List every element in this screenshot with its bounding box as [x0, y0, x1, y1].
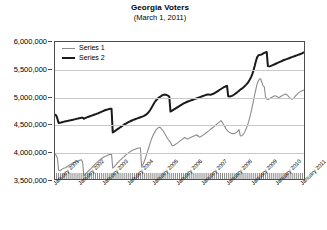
series-line-2: [55, 52, 304, 132]
x-axis-labels: January 2001January 2002January 2003Janu…: [0, 182, 320, 230]
y-axis-tick-label: 6,000,000: [14, 37, 47, 46]
y-axis-tick-mark: [48, 41, 52, 42]
y-axis-tick-label: 4,000,000: [14, 148, 47, 157]
y-axis-tick-label: 5,500,000: [14, 64, 47, 73]
y-axis-tick-mark: [48, 69, 52, 70]
chart-legend: Series 1 Series 2: [62, 44, 105, 62]
gridline: [55, 70, 304, 71]
legend-item-series-2: Series 2: [62, 54, 105, 62]
gridline: [55, 153, 304, 154]
legend-item-series-1: Series 1: [62, 44, 105, 52]
gridline: [55, 125, 304, 126]
legend-label-series-1: Series 1: [79, 44, 105, 52]
legend-swatch-series-1-icon: [62, 48, 75, 49]
y-axis-tick-mark: [48, 152, 52, 153]
y-axis-tick-mark: [48, 124, 52, 125]
series-line-1: [55, 79, 304, 176]
chart-title: Georgia Voters: [0, 3, 320, 13]
legend-label-series-2: Series 2: [79, 54, 105, 62]
y-axis-tick-mark: [48, 97, 52, 98]
legend-swatch-series-2-icon: [62, 57, 75, 59]
series-lines: [55, 42, 304, 179]
y-axis-tick-label: 5,000,000: [14, 92, 47, 101]
gridline: [55, 98, 304, 99]
y-axis-tick-label: 4,500,000: [14, 120, 47, 129]
y-axis: 6,000,0005,500,0005,000,0004,500,0004,00…: [0, 41, 52, 180]
chart-subtitle: (March 1, 2011): [0, 13, 320, 22]
chart-title-block: Georgia Voters (March 1, 2011): [0, 3, 320, 22]
